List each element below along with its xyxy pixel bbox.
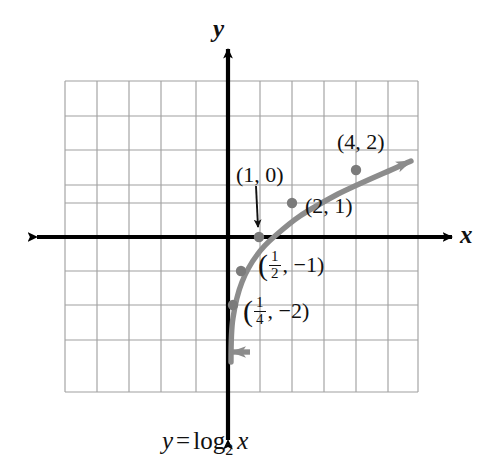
caption-log: log — [193, 427, 225, 454]
paren-open-quarter: ( — [243, 296, 253, 326]
caption-x: x — [233, 427, 248, 454]
paren-open-half: ( — [258, 250, 268, 280]
leader-line-1-0 — [256, 186, 258, 227]
graph-canvas — [0, 0, 491, 473]
fraction-numerator: 1 — [254, 295, 266, 311]
point-one — [254, 232, 264, 242]
fraction-numerator: 1 — [269, 249, 281, 265]
point-four — [351, 165, 361, 175]
point-label-4-2: (4, 2) — [337, 131, 385, 153]
point-quarter — [228, 300, 238, 310]
y-axis-label: y — [213, 16, 224, 41]
point-label-2-1: (2, 1) — [305, 195, 353, 217]
caption-equals: = — [173, 427, 193, 454]
point-label-half-rest: , −1) — [283, 254, 325, 276]
function-caption: y=log2x — [162, 428, 248, 458]
fraction-one-half: 1 2 — [269, 249, 281, 282]
fraction-denominator: 2 — [269, 265, 281, 282]
point-label-half: ( 1 2 , −1) — [258, 249, 324, 282]
fraction-denominator: 4 — [254, 311, 266, 328]
point-label-1-0: (1, 0) — [236, 164, 284, 186]
point-label-quarter: ( 1 4 , −2) — [243, 295, 309, 328]
caption-y: y — [162, 427, 173, 454]
x-axis-label: x — [460, 222, 473, 247]
logarithm-graph-figure: y x (1, 0) (2, 1) (4, 2) ( 1 2 , −1) ( 1… — [0, 0, 491, 473]
point-half — [236, 266, 246, 276]
fraction-one-quarter: 1 4 — [254, 295, 266, 328]
caption-base: 2 — [225, 441, 233, 458]
point-label-quarter-rest: , −2) — [268, 300, 310, 322]
point-two — [287, 198, 297, 208]
